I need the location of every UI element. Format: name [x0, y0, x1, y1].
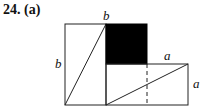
black-square — [106, 24, 147, 64]
label-right-a-side: a — [193, 76, 200, 92]
left-diagonal — [65, 24, 106, 105]
label-top-b: b — [103, 8, 110, 24]
label-left-b: b — [55, 56, 62, 72]
right-diagonal — [106, 64, 188, 105]
label-right-a-top: a — [164, 48, 171, 64]
